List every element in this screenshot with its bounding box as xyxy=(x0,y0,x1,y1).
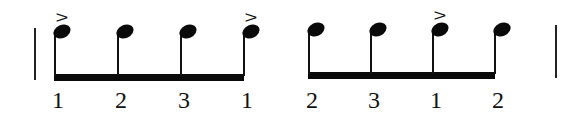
note-stem xyxy=(243,33,245,76)
beam xyxy=(54,74,244,81)
beat-count: 2 xyxy=(115,88,127,112)
beam xyxy=(308,72,495,79)
note-stem xyxy=(494,31,496,74)
note-stem xyxy=(308,31,310,74)
beat-count: 2 xyxy=(492,88,504,112)
rhythm-notation: >123>123>12 xyxy=(0,0,582,116)
left-barline xyxy=(34,28,36,80)
note-stem xyxy=(370,31,372,74)
accent-mark-icon: > xyxy=(56,10,69,27)
beat-count: 2 xyxy=(306,88,318,112)
note-stem xyxy=(432,31,434,74)
accent-mark-icon: > xyxy=(245,10,258,27)
note-stem xyxy=(117,33,119,76)
beat-count: 1 xyxy=(241,88,253,112)
right-barline xyxy=(555,25,557,78)
note-stem xyxy=(180,33,182,76)
beat-count: 3 xyxy=(368,88,380,112)
beat-count: 1 xyxy=(430,88,442,112)
beat-count: 3 xyxy=(178,88,190,112)
note-stem xyxy=(54,33,56,76)
accent-mark-icon: > xyxy=(434,8,447,25)
beat-count: 1 xyxy=(52,88,64,112)
